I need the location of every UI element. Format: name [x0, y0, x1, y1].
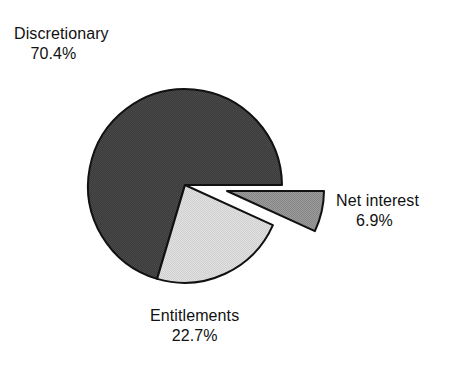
slice-label-discretionary-value: 70.4% — [14, 44, 109, 64]
slice-label-net-interest-value: 6.9% — [336, 211, 419, 231]
slice-label-net-interest-name: Net interest — [336, 191, 419, 211]
slice-label-discretionary: Discretionary 70.4% — [14, 24, 109, 63]
slice-label-net-interest: Net interest 6.9% — [336, 191, 419, 230]
slice-label-entitlements-value: 22.7% — [150, 326, 239, 346]
slice-label-entitlements: Entitlements 22.7% — [150, 306, 239, 345]
pie-chart: Discretionary 70.4% Net interest 6.9% En… — [0, 0, 465, 374]
slice-label-discretionary-name: Discretionary — [14, 24, 109, 44]
slice-label-entitlements-name: Entitlements — [150, 306, 239, 326]
